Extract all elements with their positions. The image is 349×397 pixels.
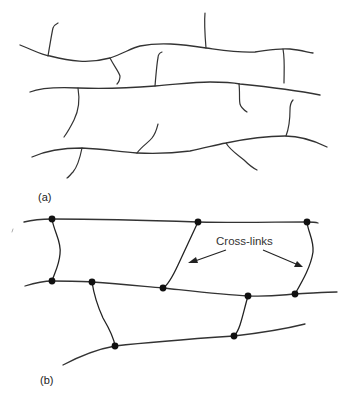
cross-link-node: [245, 293, 252, 300]
polymer-chain-a1: [20, 44, 313, 62]
cross-link: [295, 222, 313, 294]
branch: [226, 143, 257, 170]
cross-link-node: [49, 278, 56, 285]
cross-link-node: [112, 343, 119, 350]
branch: [239, 84, 247, 112]
polymer-chain-a3: [32, 136, 327, 157]
cross-link: [52, 219, 60, 281]
panel-a: (a): [20, 13, 327, 203]
cross-link: [163, 222, 198, 288]
branch: [286, 100, 293, 136]
branch: [283, 49, 284, 83]
branch: [205, 13, 206, 48]
polymer-chain-b2: [25, 281, 337, 296]
polymer-chain-a2: [30, 82, 320, 95]
branch: [110, 58, 120, 84]
cross-link: [92, 282, 115, 346]
cross-link-node: [160, 285, 167, 292]
polymer-chain-b1: [24, 219, 318, 223]
branch: [155, 52, 162, 86]
arrowhead-icon: [188, 257, 198, 263]
branch: [137, 124, 158, 153]
stray-mark: [12, 229, 13, 232]
crosslink-diagram: (a) Cross-links (b): [0, 0, 349, 397]
cross-links-annotation: Cross-links: [216, 235, 273, 247]
cross-link-node: [49, 216, 56, 223]
cross-link-node: [231, 333, 238, 340]
branch: [64, 88, 79, 137]
cross-link-node: [89, 279, 96, 286]
panel-b-label: (b): [40, 374, 53, 386]
annotation-arrow: [195, 250, 226, 261]
cross-link-node: [292, 291, 299, 298]
annotation-arrow: [263, 250, 296, 264]
cross-link-node: [195, 219, 202, 226]
cross-link: [234, 296, 248, 336]
panel-b: Cross-links (b): [12, 216, 337, 386]
panel-a-label: (a): [38, 191, 51, 203]
cross-link-node: [304, 219, 311, 226]
branch: [48, 23, 58, 56]
branch: [67, 148, 82, 178]
polymer-chain-b3: [63, 324, 305, 365]
